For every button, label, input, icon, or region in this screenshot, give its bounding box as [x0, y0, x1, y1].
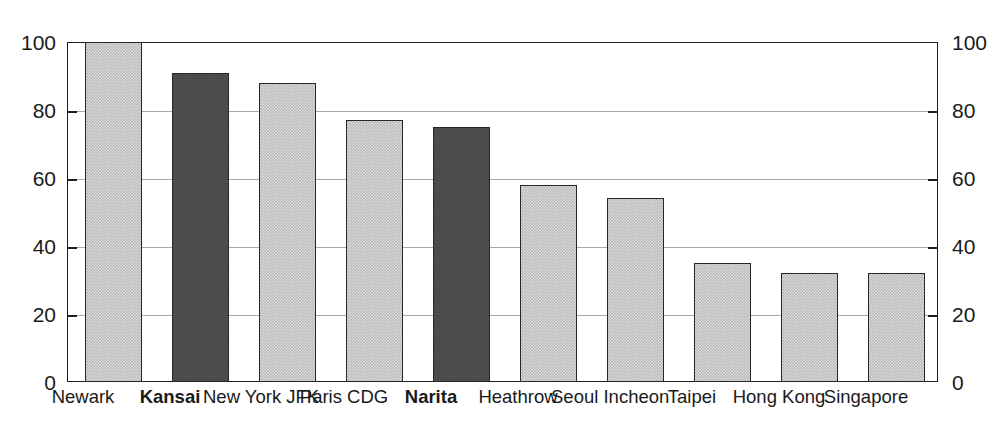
bar-singapore — [868, 273, 925, 382]
y-axis-right-label-40: 40 — [952, 236, 975, 257]
bar-seoul-incheon — [607, 198, 664, 382]
bar-taipei — [694, 263, 751, 382]
bars-container — [67, 42, 938, 382]
y-axis-left-label-40: 40 — [33, 236, 56, 257]
bar-hong-kong — [781, 273, 838, 382]
bar-chart: 100 80 60 40 20 0 100 80 60 40 20 0 — [0, 0, 1008, 429]
bar-paris-cdg — [346, 120, 403, 382]
bar-newark — [85, 42, 142, 382]
bar-new-york-jfk — [259, 83, 316, 382]
y-axis-left-label-60: 60 — [33, 168, 56, 189]
x-axis-label-singapore: Singapore — [812, 388, 920, 407]
bar-narita — [433, 127, 490, 382]
y-axis-right-label-100: 100 — [952, 32, 987, 53]
bar-heathrow — [520, 185, 577, 382]
y-axis-left-label-80: 80 — [33, 100, 56, 121]
bar-kansai — [172, 73, 229, 382]
y-axis-right-label-20: 20 — [952, 304, 975, 325]
y-axis-right-label-80: 80 — [952, 100, 975, 121]
y-axis-right-label-0: 0 — [952, 372, 964, 393]
y-axis-left-label-100: 100 — [21, 32, 56, 53]
y-axis-right-label-60: 60 — [952, 168, 975, 189]
y-axis-left-label-20: 20 — [33, 304, 56, 325]
